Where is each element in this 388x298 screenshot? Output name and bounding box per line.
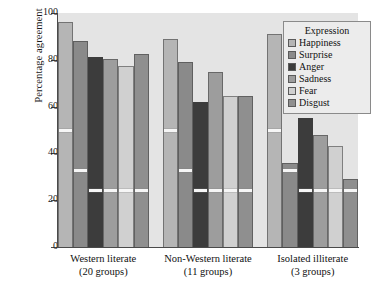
chance-level-line <box>104 189 117 192</box>
y-tick-label: 40 <box>12 146 58 157</box>
y-tick-label: 20 <box>12 193 58 204</box>
legend-title: Expression <box>288 25 366 36</box>
legend-label: Fear <box>299 86 317 96</box>
legend: Expression HappinessSurpriseAngerSadness… <box>283 21 371 114</box>
legend-label: Happiness <box>299 38 341 48</box>
legend-label: Disgust <box>299 98 330 108</box>
legend-swatch-icon <box>288 63 296 71</box>
chart-figure: Percentage agreement 020406080100 Wester… <box>0 0 388 298</box>
bar-happiness-group-1 <box>58 22 73 247</box>
legend-entry-anger: Anger <box>288 61 366 73</box>
x-axis-line <box>57 247 359 248</box>
chance-level-line <box>299 189 312 192</box>
legend-swatch-icon <box>288 75 296 83</box>
bar-anger-group-1 <box>88 57 103 247</box>
bar-sadness-group-3 <box>313 135 328 247</box>
legend-entry-sadness: Sadness <box>288 73 366 85</box>
x-group-label-3: Isolated illiterate(3 groups) <box>243 252 382 278</box>
bar-sadness-group-2 <box>208 72 223 248</box>
chance-level-line <box>283 169 296 172</box>
chance-level-line <box>179 169 192 172</box>
bar-anger-group-3 <box>298 118 313 247</box>
chance-level-line <box>224 189 237 192</box>
legend-label: Surprise <box>299 50 332 60</box>
legend-label: Anger <box>299 62 324 72</box>
bar-sadness-group-1 <box>103 59 118 247</box>
y-tick-label: 80 <box>12 53 58 64</box>
chance-level-line <box>268 129 281 132</box>
bar-disgust-group-1 <box>134 54 149 247</box>
legend-swatch-icon <box>288 39 296 47</box>
chance-level-line <box>74 169 87 172</box>
chance-level-line <box>59 129 72 132</box>
bar-surprise-group-3 <box>282 163 297 247</box>
x-group-label-line1: Isolated illiterate <box>243 252 382 265</box>
bar-disgust-group-2 <box>238 96 253 247</box>
bar-surprise-group-2 <box>178 62 193 247</box>
bar-disgust-group-3 <box>343 179 358 247</box>
chance-level-line <box>329 189 342 192</box>
chance-level-line <box>314 189 327 192</box>
legend-entry-happiness: Happiness <box>288 37 366 49</box>
bar-fear-group-3 <box>328 146 343 247</box>
y-tick-label: 100 <box>12 6 58 17</box>
chance-level-line <box>89 189 102 192</box>
chance-level-line <box>135 189 148 192</box>
legend-entries: HappinessSurpriseAngerSadnessFearDisgust <box>288 37 366 109</box>
legend-swatch-icon <box>288 87 296 95</box>
legend-entry-surprise: Surprise <box>288 49 366 61</box>
bar-anger-group-2 <box>193 102 208 247</box>
chance-level-line <box>344 189 357 192</box>
bar-surprise-group-1 <box>73 41 88 247</box>
chance-level-line <box>164 129 177 132</box>
legend-swatch-icon <box>288 51 296 59</box>
y-tick-label: 60 <box>12 100 58 111</box>
legend-label: Sadness <box>299 74 331 84</box>
bar-fear-group-1 <box>118 66 133 247</box>
legend-entry-fear: Fear <box>288 85 366 97</box>
bar-fear-group-2 <box>223 96 238 247</box>
bar-happiness-group-3 <box>267 34 282 247</box>
legend-swatch-icon <box>288 99 296 107</box>
legend-entry-disgust: Disgust <box>288 97 366 109</box>
chance-level-line <box>194 189 207 192</box>
chance-level-line <box>119 189 132 192</box>
chance-level-line <box>239 189 252 192</box>
y-tick-label: 0 <box>12 240 58 251</box>
x-group-label-line2: (3 groups) <box>243 265 382 278</box>
bar-happiness-group-2 <box>163 39 178 247</box>
chance-level-line <box>209 189 222 192</box>
